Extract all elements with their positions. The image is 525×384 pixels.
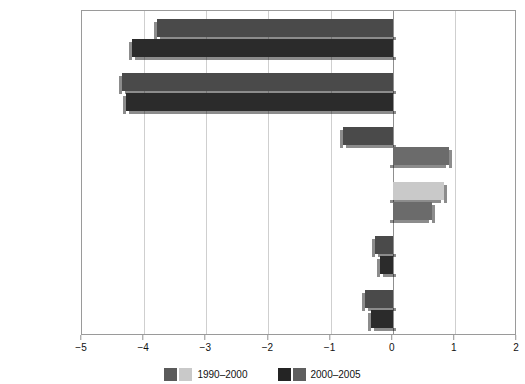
bar-2000-2005 [380,256,392,274]
bar-face [393,147,449,165]
legend-label: 2000–2005 [311,369,361,380]
bar-1990-2000 [122,73,392,91]
bar-group [82,228,515,282]
bar-chart: South AmericaAfricaAsiaEuropeNorth and C… [0,0,525,384]
bar-face [380,256,392,274]
tick-text: 0 [389,342,395,353]
tick-mark [391,335,392,340]
bar-depth-side [449,150,452,168]
x-axis-tick-label: −4 [137,335,148,353]
x-axis-tick-label: −5 [75,335,86,353]
legend-swatch-dark [278,368,291,381]
x-axis-ticks: −5−4−3−2−1012 [81,335,516,357]
bar-2000-2005 [126,93,393,111]
tick-text: −1 [324,342,335,353]
bar-depth-bottom [346,145,396,148]
x-axis-tick-label: −1 [324,335,335,353]
x-axis-tick-label: 2 [513,335,519,353]
x-axis-tick-label: −2 [262,335,273,353]
tick-text: −4 [137,342,148,353]
bar-face [343,127,393,145]
bar-depth-side [123,96,126,114]
bar-group [82,174,515,228]
bar-face [157,19,393,37]
bar-group [82,65,515,119]
x-axis-tick-label: 0 [389,335,395,353]
legend-swatch-group [278,368,306,381]
bar-depth-side [119,76,122,94]
tick-mark [267,335,268,340]
bar-depth-side [154,22,157,40]
bar-1990-2000 [393,182,444,200]
bar-group [82,11,515,65]
tick-mark [329,335,330,340]
bar-depth-side [368,313,371,331]
bar-depth-side [362,293,365,311]
bar-1990-2000 [157,19,393,37]
legend-swatch-dark [164,368,177,381]
bar-2000-2005 [371,310,393,328]
bar-group [82,119,515,173]
bar-depth-side [129,42,132,60]
tick-mark [453,335,454,340]
bar-depth-side [340,130,343,148]
bar-1990-2000 [365,290,393,308]
tick-mark [516,335,517,340]
bar-depth-bottom [129,111,396,114]
bar-depth-bottom [135,57,396,60]
bar-face [393,182,444,200]
bar-1990-2000 [343,127,393,145]
tick-text: 2 [513,342,519,353]
chart-legend: 1990–20002000–2005 [0,364,525,384]
legend-swatch-light [293,368,306,381]
bar-2000-2005 [393,147,449,165]
tick-text: 1 [451,342,457,353]
legend-swatch-light [179,368,192,381]
bar-depth-side [372,239,375,257]
legend-swatch-group [164,368,192,381]
bar-depth-bottom [383,274,395,277]
bar-2000-2005 [132,39,393,57]
legend-item[interactable]: 2000–2005 [278,368,361,381]
tick-mark [81,335,82,340]
bar-face [371,310,393,328]
tick-mark [143,335,144,340]
tick-text: −2 [262,342,273,353]
bar-face [122,73,392,91]
bar-depth-bottom [374,328,396,331]
plot-area [81,10,516,335]
bar-face [393,202,432,220]
tick-mark [205,335,206,340]
bar-face [126,93,393,111]
legend-item[interactable]: 1990–2000 [164,368,247,381]
tick-text: −3 [200,342,211,353]
x-axis-tick-label: 1 [451,335,457,353]
bar-face [365,290,393,308]
bar-group [82,282,515,336]
legend-label: 1990–2000 [197,369,247,380]
bar-depth-side [432,205,435,223]
bar-depth-bottom [390,220,429,223]
bar-face [132,39,393,57]
bar-face [375,236,392,254]
bar-depth-side [377,259,380,277]
bar-1990-2000 [375,236,392,254]
bar-2000-2005 [393,202,432,220]
bar-depth-bottom [390,165,446,168]
bar-depth-side [444,185,447,203]
tick-text: −5 [75,342,86,353]
x-axis-tick-label: −3 [200,335,211,353]
